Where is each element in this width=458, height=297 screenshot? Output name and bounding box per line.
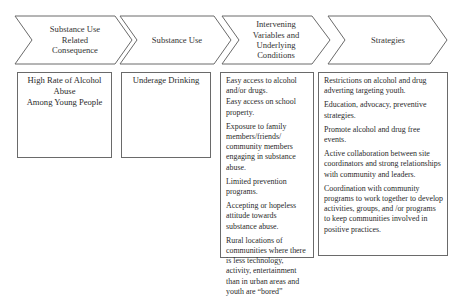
strategy-item: Promote alcohol and drug free events.	[324, 125, 443, 145]
strategy-item: Education, advocacy, preventive strategi…	[324, 100, 443, 120]
substance-use-box: Underage Drinking	[121, 72, 211, 158]
strategies-box: Restrictions on alcohol and drug adverti…	[318, 72, 448, 256]
condition-item: Limited prevention programs.	[226, 177, 309, 197]
strategy-item: Active collaboration between site coordi…	[324, 149, 443, 180]
condition-item: Accepting or hopeless attitude towards s…	[226, 201, 309, 232]
stage-3-label: Intervening Variables and Underlying Con…	[238, 16, 314, 64]
condition-item: Easy access to alcohol and/or drugs.	[226, 76, 309, 96]
condition-item: Exposure to family members/friends/ comm…	[226, 122, 309, 173]
stage-4-label: Strategies	[345, 16, 431, 64]
stage-1-label: Substance Use Related Consequence	[34, 16, 116, 64]
conditions-box: Easy access to alcohol and/or drugs. Eas…	[220, 72, 314, 258]
condition-item: Easy access on school property.	[226, 97, 309, 117]
condition-item: Rural locations of communities where the…	[226, 236, 309, 297]
strategy-item: Restrictions on alcohol and drug adverti…	[324, 76, 443, 96]
stage-2-label: Substance Use	[138, 16, 216, 64]
consequence-box: High Rate of Alcohol Abuse Among Young P…	[17, 72, 112, 158]
strategy-item: Coordination with community programs to …	[324, 184, 443, 235]
